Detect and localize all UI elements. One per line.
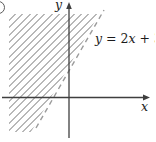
equation-part: y — [95, 31, 102, 46]
equation-part: x — [128, 31, 135, 46]
axes-layer — [0, 0, 155, 142]
figure-canvas: y x y = 2x + 3 — [0, 0, 155, 142]
equation-label: y = 2x + 3 — [95, 32, 155, 46]
y-axis-label: y — [55, 0, 62, 11]
equation-part: = 2 — [102, 31, 128, 46]
boundary-line-dashed — [36, 10, 104, 128]
y-axis-arrowhead-icon — [66, 2, 72, 9]
x-axis-label: x — [141, 101, 148, 113]
equation-part: + 3 — [136, 31, 156, 46]
